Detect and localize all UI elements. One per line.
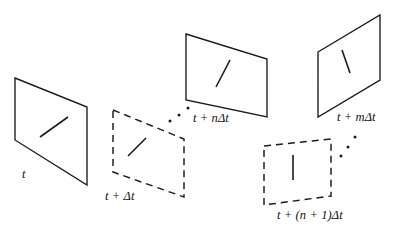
ellipsis-dot bbox=[340, 155, 343, 158]
plane-label-t-plus-dt: t + Δt bbox=[105, 190, 135, 203]
plane-outline-t-plus-n-plus-1-dt bbox=[264, 139, 331, 205]
feature-line-t-plus-n-dt bbox=[216, 60, 230, 87]
figure-canvas: t t + Δt t + nΔt t + (n + 1)Δt t + mΔt bbox=[0, 0, 396, 237]
ellipsis-dot bbox=[347, 146, 350, 149]
plane-outline-t-plus-dt bbox=[113, 110, 184, 197]
plane-label-t-plus-n-plus-1-dt: t + (n + 1)Δt bbox=[277, 209, 343, 222]
feature-line-t bbox=[40, 117, 68, 137]
ellipsis-dot bbox=[354, 136, 357, 139]
plane-label-t: t bbox=[22, 168, 26, 181]
plane-label-t-plus-n-dt: t + nΔt bbox=[193, 112, 229, 125]
ellipsis-left bbox=[169, 107, 190, 123]
ellipsis-dot bbox=[169, 120, 172, 123]
plane-group-t-plus-dt bbox=[113, 110, 184, 197]
ellipsis-dot bbox=[187, 107, 190, 110]
ellipsis-dot bbox=[178, 114, 181, 117]
plane-group-t-plus-n-dt bbox=[186, 34, 267, 117]
plane-outline-t-plus-n-dt bbox=[186, 34, 267, 117]
plane-group-t-plus-m-dt bbox=[318, 15, 380, 117]
ellipsis-right bbox=[340, 136, 357, 158]
feature-line-t-plus-m-dt bbox=[342, 50, 350, 73]
plane-label-t-plus-m-dt: t + mΔt bbox=[337, 111, 376, 124]
feature-line-t-plus-dt bbox=[128, 138, 146, 156]
plane-outline-t-plus-m-dt bbox=[318, 15, 380, 117]
plane-group-t-plus-n-plus-1-dt bbox=[264, 139, 331, 205]
